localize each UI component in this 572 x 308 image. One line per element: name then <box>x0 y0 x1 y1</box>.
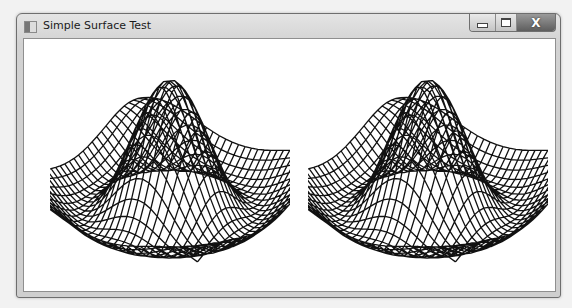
surface-mesh <box>308 81 548 262</box>
minimize-icon <box>477 23 488 28</box>
client-area <box>23 38 556 292</box>
close-icon: X <box>531 16 540 30</box>
maximize-button[interactable] <box>496 14 517 31</box>
window-title: Simple Surface Test <box>43 19 151 32</box>
caption-buttons: X <box>469 14 556 32</box>
app-window-icon[interactable] <box>24 21 37 33</box>
minimize-button[interactable] <box>470 14 496 31</box>
surface-plot-left <box>50 61 290 281</box>
close-button[interactable]: X <box>517 14 555 31</box>
surface-plot-right <box>308 61 548 281</box>
title-bar[interactable]: Simple Surface Test X <box>17 14 560 38</box>
app-window: Simple Surface Test X <box>16 13 561 298</box>
maximize-icon <box>501 18 511 27</box>
surface-mesh <box>50 81 290 262</box>
